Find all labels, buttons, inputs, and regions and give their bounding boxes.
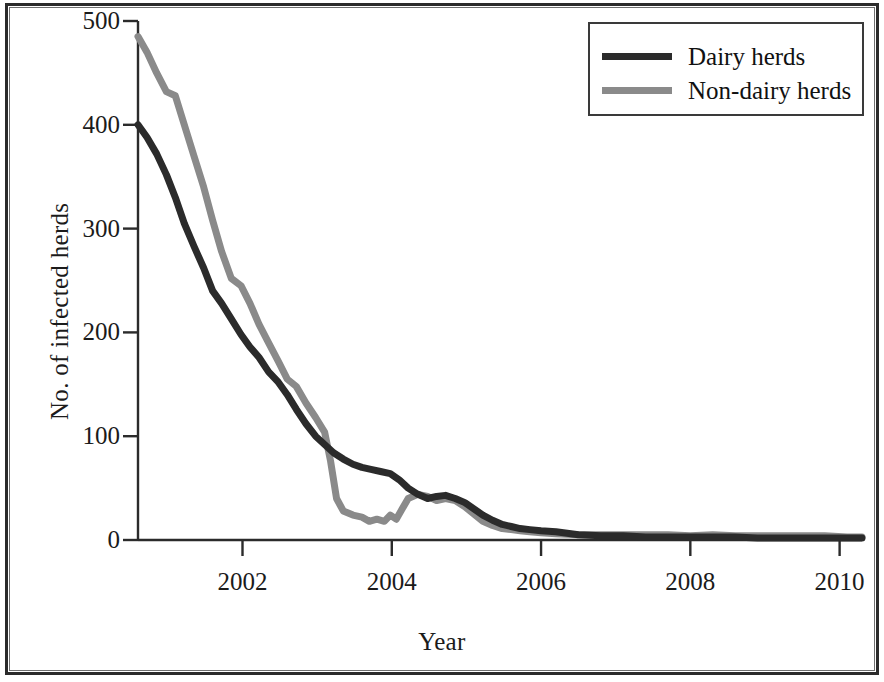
y-tick-label: 200 bbox=[30, 318, 120, 346]
x-tick-marks bbox=[242, 540, 839, 556]
figure-container: 0100200300400500 20022004200620082010 No… bbox=[0, 0, 884, 682]
legend-item-dairy-herds: Dairy herds bbox=[602, 38, 805, 74]
x-tick-label: 2002 bbox=[217, 568, 267, 596]
x-tick-label: 2010 bbox=[815, 568, 865, 596]
legend-label-non-dairy-herds: Non-dairy herds bbox=[688, 78, 851, 103]
series-line-dairy-herds bbox=[138, 125, 862, 538]
y-tick-label: 400 bbox=[30, 111, 120, 139]
y-axis-label: No. of infected herds bbox=[46, 203, 74, 420]
y-tick-label: 500 bbox=[30, 7, 120, 35]
x-axis-label: Year bbox=[0, 628, 884, 656]
y-tick-marks bbox=[123, 21, 138, 540]
legend-swatch-dairy-herds bbox=[602, 53, 672, 60]
y-tick-label: 0 bbox=[30, 526, 120, 554]
legend-item-non-dairy-herds: Non-dairy herds bbox=[602, 72, 851, 108]
y-tick-label: 300 bbox=[30, 215, 120, 243]
x-tick-label: 2004 bbox=[367, 568, 417, 596]
x-tick-label: 2008 bbox=[665, 568, 715, 596]
legend-swatch-non-dairy-herds bbox=[602, 87, 672, 94]
y-tick-label: 100 bbox=[30, 422, 120, 450]
legend-label-dairy-herds: Dairy herds bbox=[688, 44, 805, 69]
chart-legend: Dairy herds Non-dairy herds bbox=[588, 22, 864, 116]
x-tick-label: 2006 bbox=[516, 568, 566, 596]
